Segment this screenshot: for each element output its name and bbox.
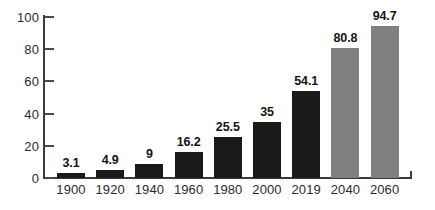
bar	[253, 122, 281, 178]
y-axis-tick-label: 20	[5, 140, 39, 153]
y-axis-tick	[45, 80, 54, 82]
bar	[214, 137, 242, 178]
bar-value-label: 35	[242, 106, 292, 119]
y-axis-tick	[45, 48, 54, 50]
bar-value-label: 9	[124, 148, 174, 161]
y-axis-tick	[45, 177, 54, 179]
y-axis-tick-label: 0	[5, 172, 39, 185]
bar	[331, 48, 359, 178]
y-axis-tick-label: 100	[5, 11, 39, 24]
bar	[96, 170, 124, 178]
bar-value-label: 54.1	[281, 75, 331, 88]
y-axis-tick	[45, 145, 54, 147]
bar	[292, 91, 320, 178]
bar-value-label: 16.2	[164, 136, 214, 149]
x-axis-tick-label: 2060	[360, 183, 410, 196]
bar	[135, 164, 163, 178]
y-axis-line	[43, 15, 45, 179]
bar-value-label: 25.5	[203, 121, 253, 134]
y-axis-tick	[45, 16, 54, 18]
bar	[175, 152, 203, 178]
bar	[57, 173, 85, 178]
bar-chart: 020406080100 3.14.9916.225.53554.180.894…	[0, 0, 435, 210]
y-axis-tick-label: 40	[5, 108, 39, 121]
y-axis-tick-label: 60	[5, 75, 39, 88]
x-axis-end-tick	[410, 171, 412, 179]
y-axis-tick	[45, 113, 54, 115]
bar-value-label: 80.8	[320, 32, 370, 45]
bar	[371, 26, 399, 178]
y-axis-tick-label: 80	[5, 43, 39, 56]
bar-value-label: 94.7	[360, 10, 410, 23]
